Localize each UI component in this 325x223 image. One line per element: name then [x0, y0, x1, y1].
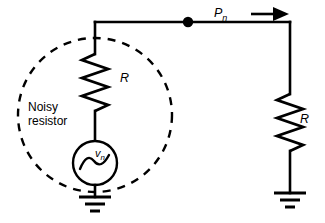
noisy-resistor-label-line2: resistor	[28, 114, 67, 128]
power-flow-arrow-icon	[251, 7, 289, 21]
load-ground-icon	[274, 193, 306, 207]
source-resistor-label: R	[120, 71, 129, 86]
circuit-diagram-canvas: Noisy resistor R R Pn vn	[0, 0, 325, 223]
noise-voltage-label: vn	[95, 147, 105, 163]
power-subscript: n	[222, 13, 227, 23]
junction-dot	[183, 17, 193, 27]
source-ground-icon	[79, 197, 111, 211]
noisy-resistor-label: Noisy resistor	[28, 100, 67, 128]
power-flow-label: Pn	[214, 6, 227, 23]
voltage-subscript: n	[101, 153, 105, 162]
source-resistor	[82, 54, 108, 111]
noisy-resistor-label-line1: Noisy	[28, 100, 67, 114]
load-resistor-label: R	[300, 112, 309, 127]
